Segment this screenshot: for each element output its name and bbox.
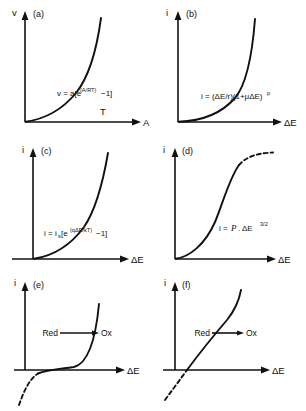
x-axis-arrowhead-e	[116, 367, 125, 374]
equation-d-lhs: i =	[219, 224, 228, 233]
panel-label-e: (e)	[33, 280, 44, 290]
panel-f: i (f) ΔE Red Ox	[153, 274, 306, 411]
curve-d-dashed-plateau	[239, 153, 273, 166]
equation-b-main: i = (ΔE/r)(1+μΔE)	[201, 92, 263, 101]
equation-c-rhs: −1]	[96, 229, 107, 238]
x-axis-label-d: ΔE	[278, 254, 291, 265]
y-axis-arrowhead-a	[22, 11, 29, 20]
panel-b: i (b) ΔE i = (ΔE/r)(1+μΔE) p	[153, 0, 306, 137]
curve-c	[34, 153, 108, 259]
y-axis-label-a: v	[12, 7, 17, 18]
equation-c-lhs: i = i	[44, 229, 57, 238]
equation-b-exponent: p	[267, 90, 270, 96]
x-axis-arrowhead-c	[120, 256, 129, 263]
panel-label-c: (c)	[41, 146, 52, 156]
panel-e: i (e) ΔE Red Ox	[0, 274, 153, 411]
panel-d: i (d) ΔE i = P . ΔE 3/2	[153, 137, 306, 274]
redox-label-ox-f: Ox	[246, 328, 258, 338]
y-axis-arrowhead-f	[172, 282, 179, 291]
redox-label-red-e: Red	[42, 328, 58, 338]
redox-arrowhead-f	[237, 330, 244, 335]
equation-d-mid: . ΔE	[238, 224, 253, 233]
curve-e-dashed-cathodic	[19, 374, 38, 406]
y-axis-arrowhead-d	[172, 148, 179, 157]
panel-label-f: (f)	[182, 280, 191, 290]
y-axis-label-c: i	[22, 144, 24, 155]
panel-label-a: (a)	[33, 9, 44, 19]
panel-a: v (a) A T v = a[e (A/RT) −1]	[0, 0, 153, 137]
equation-c-exponent: (qΔE/kT)	[70, 227, 92, 233]
figure-panel-grid: v (a) A T v = a[e (A/RT) −1] i (b) ΔE i …	[0, 0, 306, 411]
y-axis-label-d: i	[163, 144, 165, 155]
x-axis-label-f: ΔE	[272, 365, 285, 376]
x-axis-arrowhead-a	[132, 119, 141, 126]
x-axis-arrowhead-f	[261, 367, 270, 374]
equation-c-bracket: [e	[61, 229, 68, 238]
curve-a	[26, 18, 102, 122]
panel-label-d: (d)	[182, 146, 193, 156]
redox-label-red-f: Red	[194, 328, 210, 338]
x-axis-label-b: ΔE	[284, 117, 297, 128]
panel-c: i (c) ΔE i = i s [e (qΔE/kT) −1]	[0, 137, 153, 274]
redox-annotation-e: Red Ox	[42, 328, 112, 338]
y-axis-label-f: i	[164, 277, 166, 288]
x-axis-label-c: ΔE	[131, 254, 144, 265]
x-axis-label-e: ΔE	[127, 365, 140, 376]
equation-d-script-p: P	[230, 223, 237, 233]
y-axis-label-b: i	[166, 7, 168, 18]
curve-b	[179, 19, 256, 122]
equation-d-exponent: 3/2	[260, 221, 268, 227]
equation-a-exponent: (A/RT)	[80, 87, 97, 93]
equation-b: i = (ΔE/r)(1+μΔE) p	[201, 90, 270, 101]
panel-label-b: (b)	[186, 9, 197, 19]
curve-e-solid-anodic	[38, 304, 99, 374]
y-axis-arrowhead-e	[22, 282, 29, 291]
equation-a-lhs: v = a[e	[57, 89, 82, 98]
y-axis-arrowhead-b	[175, 11, 182, 20]
redox-label-ox-e: Ox	[101, 328, 113, 338]
curve-d-solid	[176, 165, 240, 259]
equation-a-rhs: −1]	[101, 89, 112, 98]
y-axis-label-e: i	[14, 277, 16, 288]
equation-a: v = a[e (A/RT) −1]	[57, 87, 112, 98]
equation-d: i = P . ΔE 3/2	[219, 221, 268, 233]
y-axis-arrowhead-c	[30, 148, 37, 157]
x-axis-arrowhead-d	[267, 256, 276, 263]
x-axis-arrowhead-b	[273, 119, 282, 126]
x-axis-label-a: A	[143, 117, 150, 128]
curve-f-dashed-cathodic	[165, 370, 187, 400]
redox-annotation-f: Red Ox	[194, 328, 257, 338]
temperature-label-a: T	[100, 106, 106, 117]
